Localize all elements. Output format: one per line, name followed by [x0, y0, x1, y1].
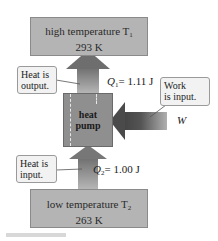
callout-work-input-line2: is input.: [164, 91, 206, 102]
heat-pump-box: heat pump: [63, 93, 113, 147]
callout-heat-input: Heat is input.: [16, 155, 57, 183]
callout-work-input-line1: Work: [164, 80, 206, 91]
q2-symbol: Q: [93, 163, 101, 175]
cold-reservoir-temp: 263 K: [31, 214, 147, 226]
q2-value: = 1.00 J: [104, 163, 139, 175]
work-label: W: [177, 114, 186, 126]
hot-reservoir-label: high temperature T: [45, 25, 129, 37]
q1-label: Q1= 1.11 J: [107, 75, 153, 89]
hot-reservoir-subscript: 1: [129, 31, 133, 39]
cold-reservoir-subscript: 2: [128, 204, 132, 212]
cold-reservoir: low temperature T2 263 K: [30, 189, 148, 228]
work-symbol: W: [177, 114, 186, 126]
q1-value: = 1.11 J: [118, 75, 153, 87]
cold-reservoir-label: low temperature T: [47, 198, 128, 210]
callout-heat-input-line1: Heat is: [20, 158, 53, 169]
heat-pump-line2: pump: [64, 120, 112, 131]
dashed-path-right: [96, 94, 97, 104]
callout-heat-output-line1: Heat is: [21, 69, 53, 80]
work-arrow-icon: [110, 102, 167, 140]
q2-label: Q2= 1.00 J: [93, 163, 140, 177]
heat-pump-label: heat pump: [64, 109, 112, 131]
hot-reservoir: high temperature T1 293 K: [30, 17, 148, 56]
q1-arrow-icon: [66, 50, 110, 94]
callout-work-input: Work is input.: [160, 77, 210, 106]
heat-pump-line1: heat: [64, 109, 112, 120]
callout-heat-input-line2: input.: [20, 169, 53, 180]
figure-caption-fragment: [6, 233, 66, 237]
callout-heat-output: Heat is output.: [17, 66, 57, 94]
q1-symbol: Q: [107, 75, 115, 87]
hot-reservoir-temp: 293 K: [31, 41, 147, 53]
callout-heat-output-line2: output.: [21, 80, 53, 91]
